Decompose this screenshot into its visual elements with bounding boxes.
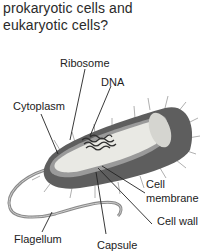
question-text: prokaryotic cells and eukaryotic cells? [3,0,133,34]
label-cell-wall: Cell wall [157,215,198,227]
question-line-2: eukaryotic cells? [3,17,133,34]
label-cell-membrane-line2: membrane [146,192,199,204]
label-flagellum: Flagellum [14,233,62,245]
prokaryotic-cell-diagram: Ribosome DNA Cytoplasm Cell membrane Cel… [0,50,216,252]
label-ribosome: Ribosome [60,57,110,69]
question-line-1: prokaryotic cells and [3,0,133,17]
label-cell-membrane-line1: Cell [146,178,165,190]
label-dna: DNA [101,76,124,88]
label-capsule: Capsule [97,239,137,251]
label-cytoplasm: Cytoplasm [13,100,65,112]
